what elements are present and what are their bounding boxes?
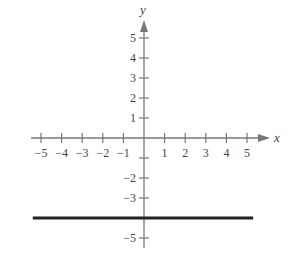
y-tick-label: −3 bbox=[123, 191, 136, 205]
x-axis: x −5−4−3−2−112345 bbox=[31, 130, 280, 160]
y-tick-label: −5 bbox=[123, 231, 136, 245]
y-axis: y 54321−2−3−5 bbox=[123, 2, 149, 248]
x-tick-label: 2 bbox=[182, 146, 188, 160]
x-tick-label: −4 bbox=[55, 146, 68, 160]
y-axis-label: y bbox=[138, 2, 146, 17]
y-tick-label: 5 bbox=[130, 31, 136, 45]
y-tick-label: 4 bbox=[130, 51, 136, 65]
x-tick-label: −5 bbox=[35, 146, 48, 160]
x-tick-label: −1 bbox=[117, 146, 130, 160]
x-tick-label: −2 bbox=[96, 146, 109, 160]
x-axis-arrow-icon bbox=[258, 134, 270, 142]
y-tick-label: 2 bbox=[130, 91, 136, 105]
y-tick-label: 3 bbox=[130, 71, 136, 85]
y-axis-arrow-icon bbox=[140, 20, 148, 32]
y-tick-label: 1 bbox=[130, 111, 136, 125]
x-tick-label: 1 bbox=[162, 146, 168, 160]
x-tick-label: 5 bbox=[244, 146, 250, 160]
x-axis-ticks: −5−4−3−2−112345 bbox=[35, 133, 250, 160]
x-tick-label: 3 bbox=[203, 146, 209, 160]
x-axis-label: x bbox=[273, 130, 280, 145]
x-tick-label: 4 bbox=[223, 146, 229, 160]
x-tick-label: −3 bbox=[76, 146, 89, 160]
y-tick-label: −2 bbox=[123, 171, 136, 185]
coordinate-plane: x −5−4−3−2−112345 y 54321−2−3−5 bbox=[0, 0, 292, 263]
